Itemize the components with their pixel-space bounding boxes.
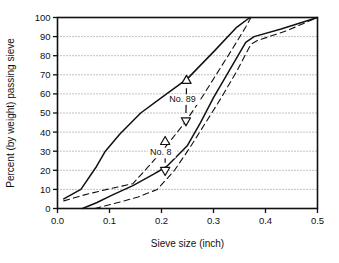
gradation-chart: 0.00.10.20.30.40.5 010203040506070809010… <box>0 0 339 263</box>
y-tick-label: 30 <box>40 146 51 157</box>
y-tick-label: 100 <box>35 12 51 23</box>
y-tick-label: 20 <box>40 165 51 176</box>
x-tick-label: 0.0 <box>51 215 64 226</box>
y-tick-label: 10 <box>40 184 51 195</box>
y-tick-label: 60 <box>40 88 51 99</box>
chart-figure: 0.00.10.20.30.40.5 010203040506070809010… <box>0 0 339 263</box>
y-tick-label: 0 <box>45 203 50 214</box>
x-tick-label: 0.4 <box>259 215 272 226</box>
x-tick-label: 0.5 <box>311 215 324 226</box>
x-tick-label: 0.2 <box>155 215 168 226</box>
x-tick-label: 0.3 <box>207 215 220 226</box>
y-tick-label: 40 <box>40 127 51 138</box>
y-axis-title: Percent (by weight) passing sieve <box>5 38 16 188</box>
annotation-label: No. 8 <box>150 147 172 157</box>
y-tick-label: 80 <box>40 50 51 61</box>
x-axis-title: Sieve size (inch) <box>151 238 224 249</box>
y-tick-label: 90 <box>40 31 51 42</box>
annotation-label: No. 89 <box>169 94 196 104</box>
x-tick-label: 0.1 <box>103 215 116 226</box>
y-tick-label: 50 <box>40 107 51 118</box>
y-tick-label: 70 <box>40 69 51 80</box>
